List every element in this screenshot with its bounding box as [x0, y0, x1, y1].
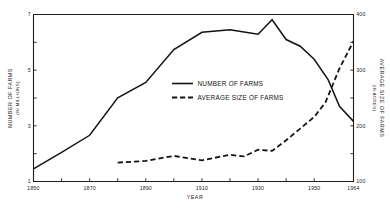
x-tick-label: 1950 — [308, 185, 320, 191]
y-tick-label: 1 — [28, 178, 31, 184]
x-tick-label: 1910 — [196, 185, 208, 191]
y2-axis-title: AVERAGE SIZE OF FARMS — [379, 59, 385, 138]
legend-label-1: NUMBER OF FARMS — [198, 80, 264, 87]
x-axis-title: YEAR — [187, 194, 204, 200]
y-tick-label: 5 — [28, 67, 31, 73]
y-tick-label: 7 — [28, 11, 31, 17]
chart-canvas: 1850187018901910193019501964135710020030… — [0, 0, 390, 212]
x-tick-label: 1850 — [27, 185, 39, 191]
series-line-1 — [34, 20, 354, 169]
y2-tick-label: 100 — [356, 178, 365, 184]
y-axis-subtitle: (IN MILLIONS) — [15, 81, 20, 115]
x-tick-label: 1964 — [347, 185, 359, 191]
farms-chart-figure: 1850187018901910193019501964135710020030… — [0, 0, 390, 212]
y2-tick-label: 400 — [356, 11, 365, 17]
y-axis-title: NUMBER OF FARMS — [7, 68, 13, 128]
y2-tick-label: 300 — [356, 67, 365, 73]
x-tick-label: 1870 — [84, 185, 96, 191]
series-line-2 — [118, 41, 354, 162]
left-bottom-axis — [34, 15, 354, 182]
legend-label-2: AVERAGE SIZE OF FARMS — [198, 94, 284, 101]
x-tick-label: 1930 — [252, 185, 264, 191]
y2-tick-label: 200 — [356, 123, 365, 129]
x-tick-label: 1890 — [140, 185, 152, 191]
y2-axis-subtitle: (IN ACRES) — [372, 85, 377, 112]
y-tick-label: 3 — [28, 123, 31, 129]
